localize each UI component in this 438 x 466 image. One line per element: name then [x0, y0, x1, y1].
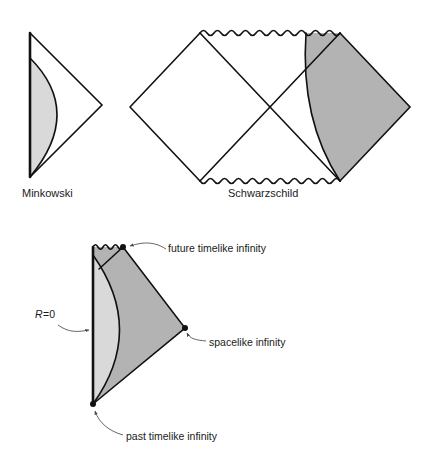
schwarzschild-caption: Schwarzschild: [228, 187, 298, 199]
figure-canvas: Minkowski Schwarzschild: [0, 0, 438, 466]
past-timelike-infinity-dot: [90, 401, 96, 407]
future-timelike-infinity-label: future timelike infinity: [168, 242, 267, 254]
spacelike-infinity-label: spacelike infinity: [209, 336, 286, 348]
minkowski-panel: Minkowski: [22, 33, 102, 199]
spacelike-infinity-leader: [187, 333, 206, 341]
future-timelike-infinity-dot: [120, 244, 126, 250]
future-timelike-infinity-leader: [130, 243, 166, 249]
spacelike-infinity-dot: [182, 325, 188, 331]
past-timelike-infinity-leader: [95, 411, 123, 435]
r-equals-zero-leader: [58, 325, 89, 331]
penrose-diagram-figure: Minkowski Schwarzschild: [0, 0, 438, 466]
r-equals-zero-label: R =0: [35, 308, 55, 320]
r-value: =0: [43, 308, 55, 320]
collapse-panel: future timelike infinity spacelike infin…: [35, 242, 286, 442]
r-symbol: R: [35, 308, 43, 320]
schwarzschild-panel: Schwarzschild: [130, 31, 410, 200]
minkowski-caption: Minkowski: [22, 187, 73, 199]
past-timelike-infinity-label: past timelike infinity: [126, 430, 218, 442]
